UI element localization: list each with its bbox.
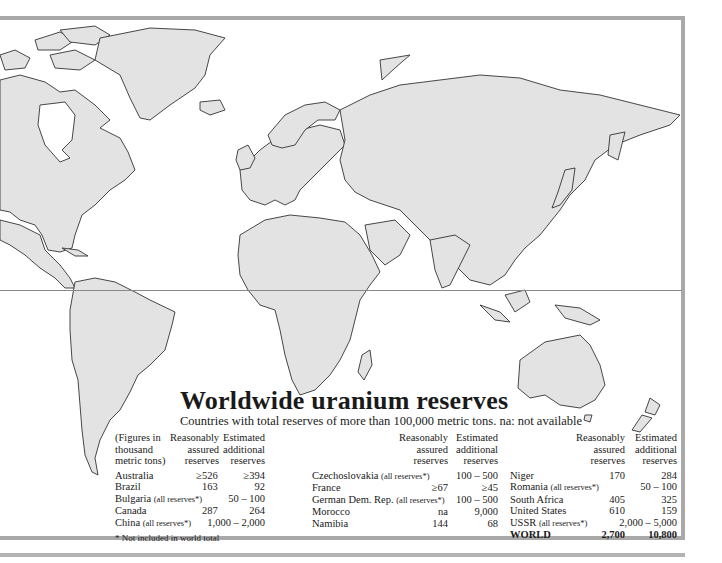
divider — [0, 553, 685, 557]
table-row: Brazil16392 — [115, 481, 265, 493]
map-subtitle: Countries with total reserves of more th… — [180, 414, 582, 429]
table-group-2: Reasonably assured reserves Estimated ad… — [312, 432, 502, 529]
col-header-additional: Estimated — [219, 432, 265, 444]
table-group-3: Reasonably assured reserves Estimated ad… — [510, 432, 685, 541]
table-row: United States610159 — [510, 505, 685, 517]
table-row-world-total: WORLD2,70010,800 — [510, 529, 685, 541]
table-row: France≥67≥45 — [312, 482, 502, 494]
table-group-1: (Figures in thousand metric tons) Reason… — [115, 432, 265, 545]
table-row: China (all reserves*)1,000 – 2,000 — [115, 517, 265, 530]
col-header-assured: Reasonably — [170, 432, 219, 444]
equator-line — [0, 290, 682, 291]
table-row: USSR (all reserves*)2,000 – 5,000 — [510, 517, 685, 530]
table-row: Canada287264 — [115, 505, 265, 517]
footnote: * Not included in world total — [115, 533, 265, 545]
table-row: Niger170284 — [510, 470, 685, 482]
table-row: German Dem. Rep. (all reserves*)100 – 50… — [312, 494, 502, 507]
map-title: Worldwide uranium reserves — [180, 386, 508, 416]
table-row: Namibia14468 — [312, 518, 502, 530]
table-row: South Africa405325 — [510, 494, 685, 506]
units-note: (Figures in — [115, 432, 170, 444]
table-row: Czechoslovakia (all reserves*)100 – 500 — [312, 470, 502, 483]
table-row: Australia≥526≥394 — [115, 470, 265, 482]
table-row: Romania (all reserves*)50 – 100 — [510, 481, 685, 494]
table-row: Moroccona9,000 — [312, 506, 502, 518]
table-row: Bulgaria (all reserves*)50 – 100 — [115, 493, 265, 506]
